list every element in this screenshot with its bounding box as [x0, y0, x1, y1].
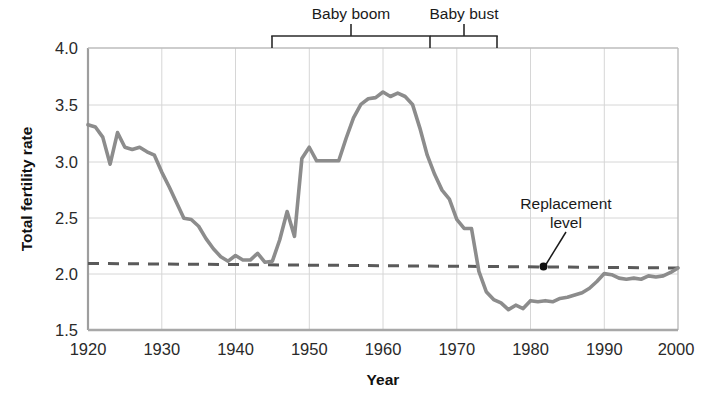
- replacement-level-label-line2: level: [550, 214, 582, 231]
- replacement-level-marker-dot: [540, 263, 548, 271]
- x-tick-1970: 1970: [438, 340, 475, 358]
- x-tick-1940: 1940: [217, 340, 254, 358]
- chart-svg: Replacement level Baby boom Baby bust 4.…: [0, 0, 717, 420]
- y-tick-labels: 4.0 3.5 3.0 2.5 2.0 1.5: [55, 39, 78, 339]
- x-tick-2000: 2000: [658, 340, 695, 358]
- fertility-rate-chart: Replacement level Baby boom Baby bust 4.…: [0, 0, 717, 420]
- x-tick-1980: 1980: [512, 340, 549, 358]
- baby-bust-label: Baby bust: [430, 5, 500, 22]
- x-tick-1930: 1930: [143, 340, 180, 358]
- x-tick-1990: 1990: [586, 340, 623, 358]
- y-tick-2-0: 2.0: [55, 265, 78, 283]
- x-axis-title: Year: [367, 371, 400, 388]
- baby-bust-bracket: [430, 24, 498, 48]
- y-tick-3-0: 3.0: [55, 153, 78, 171]
- baby-boom-label: Baby boom: [312, 5, 390, 22]
- baby-boom-bracket: [271, 24, 431, 48]
- x-tick-labels: 1920 1930 1940 1950 1960 1970 1980 1990 …: [70, 340, 695, 358]
- y-tick-4-0: 4.0: [55, 39, 78, 57]
- y-tick-3-5: 3.5: [55, 96, 78, 114]
- y-axis-title: Total fertility rate: [18, 126, 35, 251]
- x-tick-1960: 1960: [365, 340, 402, 358]
- y-tick-1-5: 1.5: [55, 321, 78, 339]
- y-tick-2-5: 2.5: [55, 209, 78, 227]
- x-tick-1920: 1920: [70, 340, 107, 358]
- replacement-level-label-line1: Replacement: [520, 195, 612, 212]
- x-tick-1950: 1950: [291, 340, 328, 358]
